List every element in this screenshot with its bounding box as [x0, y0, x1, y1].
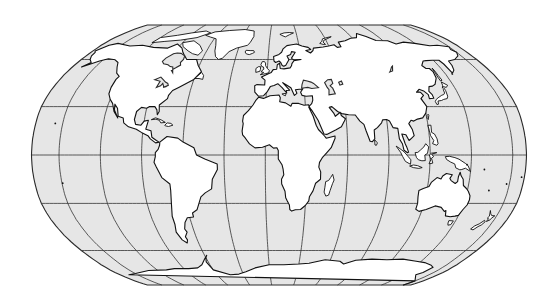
world-map [0, 0, 559, 304]
small-island [488, 190, 490, 192]
aral [339, 81, 343, 85]
small-island [62, 182, 64, 184]
small-island [466, 164, 468, 166]
small-island [506, 183, 508, 185]
taiwan [427, 114, 429, 119]
small-island [54, 123, 56, 125]
small-island [521, 176, 523, 178]
ireland [256, 67, 261, 73]
small-island [484, 169, 486, 171]
kamchatka-isles [452, 73, 453, 75]
